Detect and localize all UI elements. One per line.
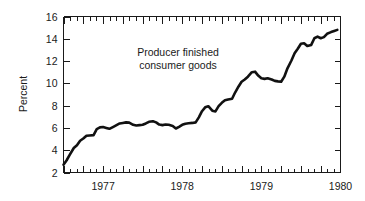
- x-tick-label: 1980: [329, 180, 353, 192]
- x-tick-label: 1978: [171, 180, 195, 192]
- y-tick-label: 10: [46, 77, 58, 89]
- y-tick-label: 12: [46, 55, 58, 67]
- y-tick-label: 4: [52, 144, 58, 156]
- y-axis-title: Percent: [17, 76, 29, 112]
- series-annotation-line-2: consumer goods: [139, 59, 217, 71]
- x-tick-label: 1979: [250, 180, 274, 192]
- series-annotation-line-1: Producer finished: [137, 46, 219, 58]
- y-tick-label: 14: [46, 33, 58, 45]
- x-tick-label: 1977: [91, 180, 115, 192]
- y-tick-label: 6: [52, 122, 58, 134]
- inflation-line-chart: 246810121416 1977197819791980 Percent Pr…: [0, 0, 365, 201]
- y-tick-label: 8: [52, 100, 58, 112]
- chart-container: 246810121416 1977197819791980 Percent Pr…: [0, 0, 365, 201]
- y-tick-label: 16: [46, 11, 58, 23]
- y-tick-label: 2: [52, 167, 58, 179]
